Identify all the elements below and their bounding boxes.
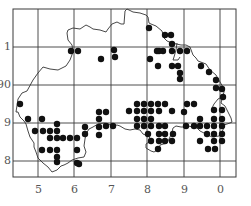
occurrence-dot (211, 138, 217, 144)
occurrence-dot (175, 63, 181, 69)
occurrence-dot (98, 56, 104, 62)
occurrence-dot (211, 107, 217, 113)
occurrence-dot (54, 121, 60, 127)
occurrence-dot (96, 124, 102, 130)
occurrence-dot (148, 116, 154, 122)
occurrence-dot (148, 101, 154, 107)
occurrence-dot (156, 123, 162, 129)
occurrence-dot (211, 116, 217, 122)
occurrence-dot (148, 108, 154, 114)
occurrence-dot (60, 135, 66, 141)
occurrence-dot (219, 131, 225, 137)
x-axis-label: 5 (35, 184, 42, 195)
occurrence-dot (204, 131, 210, 137)
occurrence-dot (168, 32, 174, 38)
occurrence-dot (162, 32, 168, 38)
occurrence-dot (40, 128, 46, 134)
y-axis-label: 9 (4, 117, 11, 128)
occurrence-dot (134, 123, 140, 129)
occurrence-dot (96, 109, 102, 115)
occurrence-dot (219, 123, 225, 129)
occurrence-dot (162, 138, 168, 144)
occurrence-dot (181, 109, 187, 115)
occurrence-dot (155, 63, 161, 69)
occurrence-dot (154, 48, 160, 54)
occurrence-dot (219, 138, 225, 144)
occurrence-dot (204, 123, 210, 129)
x-axis-label: 7 (108, 184, 115, 195)
occurrence-dot (76, 161, 82, 167)
occurrence-dot (134, 101, 140, 107)
y-axis-label: 1 (4, 41, 11, 52)
occurrence-dot (75, 48, 81, 54)
occurrence-dot (110, 123, 116, 129)
occurrence-dot (103, 123, 109, 129)
occurrence-dot (219, 107, 225, 113)
y-axis-label: 8 (4, 155, 11, 166)
distribution-map (0, 0, 251, 206)
occurrence-dot (148, 123, 154, 129)
occurrence-dot (219, 116, 225, 122)
occurrence-dot (111, 47, 117, 53)
occurrence-dot (47, 128, 53, 134)
occurrence-dot (162, 101, 168, 107)
occurrence-dot (219, 86, 225, 92)
occurrence-dot (211, 131, 217, 137)
occurrence-dot (54, 159, 60, 165)
occurrence-dot (155, 146, 161, 152)
occurrence-dot (54, 147, 60, 153)
x-axis-label: 0 (217, 184, 224, 195)
occurrence-dot (82, 124, 88, 130)
occurrence-dot (162, 123, 168, 129)
occurrence-dot (141, 101, 147, 107)
occurrence-dot (74, 135, 80, 141)
occurrence-dot (156, 108, 162, 114)
occurrence-dot (47, 135, 53, 141)
occurrence-dot (169, 63, 175, 69)
occurrence-dot (32, 128, 38, 134)
occurrence-dot (177, 70, 183, 76)
occurrence-dot (134, 108, 140, 114)
occurrence-dot (197, 116, 203, 122)
occurrence-dot (74, 147, 80, 153)
occurrence-dot (211, 123, 217, 129)
x-axis-label: 8 (144, 184, 151, 195)
occurrence-dot (156, 138, 162, 144)
occurrence-dot (25, 116, 31, 122)
occurrence-dot (197, 138, 203, 144)
occurrence-dot (141, 108, 147, 114)
occurrence-dot (126, 108, 132, 114)
occurrence-dot (82, 131, 88, 137)
occurrence-dot (183, 123, 189, 129)
occurrence-dot (213, 85, 219, 91)
occurrence-dot (162, 131, 168, 137)
occurrence-dot (177, 48, 183, 54)
occurrence-dot (47, 147, 53, 153)
occurrence-dot (148, 138, 154, 144)
occurrence-dot (191, 123, 197, 129)
y-axis-label: 90 (0, 79, 11, 90)
occurrence-dot (184, 101, 190, 107)
grid-lines (13, 9, 236, 177)
occurrence-dot (206, 69, 212, 75)
occurrence-dot (220, 94, 226, 100)
occurrence-dot (205, 146, 211, 152)
x-axis-label: 9 (181, 184, 188, 195)
occurrence-dot (141, 116, 147, 122)
occurrence-dot (68, 48, 74, 54)
occurrence-dot (67, 135, 73, 141)
occurrence-dot (169, 48, 175, 54)
occurrence-dot (54, 128, 60, 134)
occurrence-dot (134, 116, 140, 122)
occurrence-dot (197, 123, 203, 129)
occurrence-dot (103, 109, 109, 115)
occurrence-dot (145, 131, 151, 137)
occurrence-dot (169, 108, 175, 114)
occurrence-dot (212, 146, 218, 152)
occurrence-dot (170, 131, 176, 137)
occurrence-dot (96, 132, 102, 138)
occurrence-dot (96, 116, 102, 122)
occurrence-dot (146, 25, 152, 31)
occurrence-dot (112, 54, 118, 60)
occurrence-dot (184, 48, 190, 54)
